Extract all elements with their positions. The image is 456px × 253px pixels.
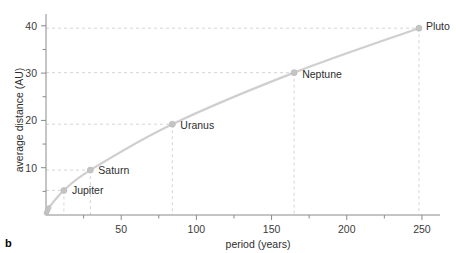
x-axis-title: period (years) — [226, 238, 291, 250]
data-point-marker — [47, 206, 51, 210]
y-axis-title: average distance (AU) — [13, 68, 25, 172]
y-tick-label: 10 — [25, 162, 37, 174]
tick-labels-group: 1020304050100150200250 — [25, 20, 431, 235]
panel-letter: b — [5, 237, 12, 249]
data-point-marker — [169, 121, 175, 127]
data-point-marker — [291, 70, 297, 76]
data-point-label-saturn: Saturn — [98, 164, 129, 176]
x-tick-label: 250 — [413, 223, 431, 235]
y-tick-label: 20 — [25, 114, 37, 126]
period-vs-distance-chart: 1020304050100150200250 JupiterSaturnUran… — [0, 0, 456, 253]
x-tick-label: 200 — [338, 223, 356, 235]
data-point-marker — [87, 167, 93, 173]
data-point-label-neptune: Neptune — [302, 68, 342, 80]
y-tick-label: 40 — [25, 20, 37, 32]
x-tick-label: 50 — [115, 223, 127, 235]
data-point-marker — [61, 187, 67, 193]
y-tick-label: 30 — [25, 67, 37, 79]
axes-group — [46, 14, 440, 215]
data-point-label-jupiter: Jupiter — [72, 184, 104, 196]
x-tick-label: 150 — [263, 223, 281, 235]
data-point-label-pluto: Pluto — [426, 20, 450, 32]
figure-panel-b: 1020304050100150200250 JupiterSaturnUran… — [0, 0, 456, 253]
data-point-label-uranus: Uranus — [180, 119, 214, 131]
x-tick-label: 100 — [188, 223, 206, 235]
point-labels-group: JupiterSaturnUranusNeptunePluto — [72, 20, 450, 196]
data-point-marker — [416, 25, 422, 31]
